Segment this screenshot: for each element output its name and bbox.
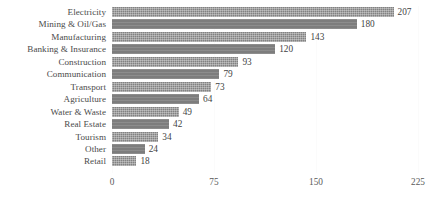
bar-row: 64 <box>112 94 418 104</box>
bar-row: 143 <box>112 32 418 42</box>
bar-row: 49 <box>112 107 418 117</box>
bar-value-label: 120 <box>279 43 293 55</box>
category-label: Retail <box>0 156 106 166</box>
bar-row: 18 <box>112 156 418 166</box>
x-tick-label: 0 <box>110 176 115 188</box>
category-label: Banking & Insurance <box>0 44 106 54</box>
bar <box>112 7 394 17</box>
gridline-x-225 <box>418 6 419 173</box>
bar-row: 93 <box>112 57 418 67</box>
bar <box>112 144 145 154</box>
x-tick-label: 150 <box>309 176 323 188</box>
bar <box>112 57 238 67</box>
bar-chart: ElectricityMining & Oil/GasManufacturing… <box>0 0 441 205</box>
bar-row: 180 <box>112 19 418 29</box>
category-label: Construction <box>0 57 106 67</box>
bar-row: 34 <box>112 132 418 142</box>
category-label: Other <box>0 144 106 154</box>
bar <box>112 19 357 29</box>
bar-value-label: 93 <box>242 56 251 68</box>
category-axis-labels: ElectricityMining & Oil/GasManufacturing… <box>0 6 106 168</box>
x-tick-label: 225 <box>411 176 425 188</box>
category-label: Water & Waste <box>0 107 106 117</box>
bar <box>112 44 275 54</box>
bar <box>112 32 306 42</box>
category-label: Manufacturing <box>0 32 106 42</box>
x-tick-label: 75 <box>209 176 218 188</box>
bar-row: 79 <box>112 69 418 79</box>
category-label: Communication <box>0 69 106 79</box>
bar <box>112 107 179 117</box>
bar-row: 24 <box>112 144 418 154</box>
category-label: Tourism <box>0 132 106 142</box>
bar-row: 207 <box>112 7 418 17</box>
bar <box>112 69 219 79</box>
bar-value-label: 79 <box>223 68 232 80</box>
bar-value-label: 34 <box>162 131 171 143</box>
bar-value-label: 24 <box>149 143 158 155</box>
bar-row: 42 <box>112 119 418 129</box>
bar-row: 73 <box>112 82 418 92</box>
bar <box>112 156 136 166</box>
bar-value-label: 49 <box>183 106 192 118</box>
category-label: Mining & Oil/Gas <box>0 19 106 29</box>
bar-value-label: 73 <box>215 81 224 93</box>
bar-value-label: 207 <box>398 6 412 18</box>
bar-value-label: 42 <box>173 118 182 130</box>
bar-value-label: 64 <box>203 93 212 105</box>
bar-value-label: 180 <box>361 18 375 30</box>
category-label: Real Estate <box>0 119 106 129</box>
bar-row: 120 <box>112 44 418 54</box>
x-axis: 075150225 <box>0 176 441 196</box>
bar <box>112 132 158 142</box>
bar <box>112 119 169 129</box>
bar-value-label: 18 <box>140 155 149 167</box>
bar <box>112 82 211 92</box>
bar-value-label: 143 <box>310 31 324 43</box>
bars-layer: 207180143120937973644942342418 <box>112 6 418 173</box>
category-label: Transport <box>0 82 106 92</box>
category-label: Electricity <box>0 7 106 17</box>
category-label: Agriculture <box>0 94 106 104</box>
bar <box>112 94 199 104</box>
